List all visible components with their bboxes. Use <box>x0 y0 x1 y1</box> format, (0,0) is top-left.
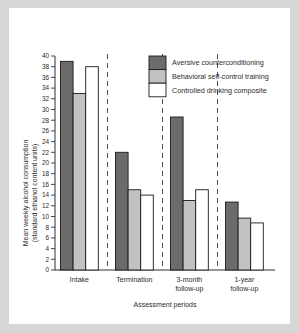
x-category-label: Termination <box>116 276 152 283</box>
x-category-label: 3-month <box>177 276 203 283</box>
bar <box>141 195 154 270</box>
y-tick-label: 38 <box>42 63 50 70</box>
y-tick-label: 16 <box>42 181 50 188</box>
y-tick-label: 10 <box>42 213 50 220</box>
legend: Aversive counterconditioningBehavioral s… <box>149 56 269 97</box>
x-category-label: 1-year <box>234 276 255 284</box>
y-tick-label: 34 <box>42 84 50 91</box>
legend-label: Behavioral self-control training <box>172 72 269 81</box>
x-category-label: follow-up <box>175 285 203 293</box>
bar <box>251 223 264 270</box>
x-axis-category-labels: IntakeTermination3-monthfollow-up1-yearf… <box>70 276 259 293</box>
bar-chart: Mean weekly alcohol consumption (standar… <box>9 8 290 324</box>
y-axis-title-line2: (standard ethanol content units) <box>31 144 39 242</box>
y-tick-label: 14 <box>42 191 50 198</box>
legend-swatch <box>149 70 166 84</box>
legend-swatch <box>149 56 166 70</box>
y-tick-label: 36 <box>42 74 50 81</box>
bar <box>86 67 99 270</box>
bar <box>183 200 196 270</box>
y-tick-label: 12 <box>42 202 50 209</box>
legend-label: Controlled drinking composite <box>172 86 267 95</box>
y-tick-label: 32 <box>42 95 50 102</box>
y-tick-label: 6 <box>45 234 49 241</box>
y-tick-label: 24 <box>42 138 50 145</box>
x-category-label: follow-up <box>230 285 258 293</box>
bar <box>128 190 141 270</box>
y-tick-label: 8 <box>45 224 49 231</box>
figure-frame: Mean weekly alcohol consumption (standar… <box>9 8 290 324</box>
bar <box>116 152 129 270</box>
bar <box>196 190 209 270</box>
y-tick-label: 2 <box>45 256 49 263</box>
bar <box>171 117 184 270</box>
y-tick-label: 26 <box>42 127 50 134</box>
y-tick-label: 22 <box>42 149 50 156</box>
x-category-label: Intake <box>70 276 89 283</box>
bar <box>226 202 239 270</box>
legend-label: Aversive counterconditioning <box>172 58 264 67</box>
y-tick-label: 30 <box>42 106 50 113</box>
x-axis-title: Assessment periods <box>133 301 197 309</box>
legend-swatch <box>149 83 166 97</box>
y-axis-ticks: 0246810121416182022242628303234363840 <box>42 52 55 273</box>
y-axis-title-line1: Mean weekly alcohol consumption <box>22 140 30 247</box>
y-tick-label: 4 <box>45 245 49 252</box>
y-tick-label: 18 <box>42 170 50 177</box>
bar <box>238 218 251 270</box>
y-tick-label: 28 <box>42 117 50 124</box>
bar <box>61 61 74 270</box>
y-tick-label: 0 <box>45 266 49 273</box>
bar <box>73 93 86 270</box>
y-tick-label: 20 <box>42 159 50 166</box>
y-tick-label: 40 <box>42 52 50 59</box>
